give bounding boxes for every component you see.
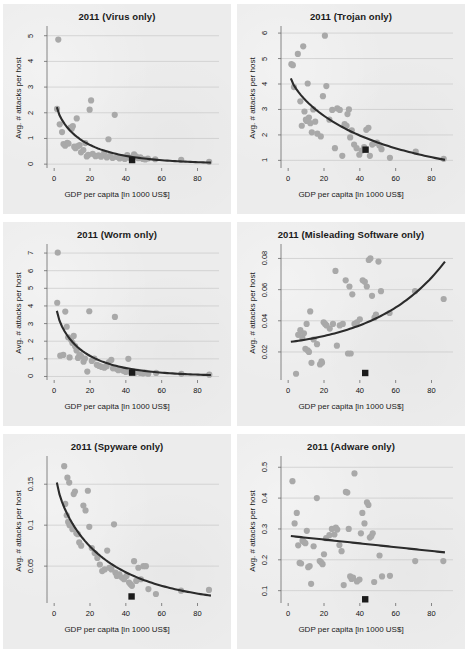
data-point (153, 591, 159, 597)
x-tick-label: 20 (310, 609, 338, 618)
y-axis-label: Avg. # attacks per host (247, 42, 259, 154)
y-tick-label: 7 (25, 241, 37, 265)
trend-line (57, 311, 211, 375)
data-point (308, 581, 314, 587)
x-tick-label: 20 (76, 174, 104, 183)
x-tick-label: 80 (184, 174, 212, 183)
highlight-marker (129, 157, 135, 163)
y-tick-label: 1 (259, 148, 271, 172)
data-point (143, 563, 149, 569)
highlight-marker (128, 593, 134, 599)
data-point (304, 528, 310, 534)
data-point (356, 576, 362, 582)
x-tick-label: 0 (40, 174, 68, 183)
data-point (440, 558, 446, 564)
data-point (339, 153, 345, 159)
data-point (337, 107, 343, 113)
data-point (349, 291, 355, 297)
chart-panel: 2011 (Misleading Software only)0.020.040… (237, 222, 465, 426)
x-tick-label: 40 (346, 609, 374, 618)
data-point (86, 308, 92, 314)
data-point (367, 255, 373, 261)
data-point (365, 502, 371, 508)
y-tick-label: 6 (259, 21, 271, 45)
x-tick-label: 20 (310, 174, 338, 183)
data-point (387, 573, 393, 579)
y-tick-label: 0 (25, 152, 37, 176)
data-point (87, 107, 93, 113)
data-point (55, 250, 61, 256)
data-point (364, 283, 370, 289)
data-point (387, 155, 393, 161)
x-axis-label: GDP per capita [in 1000 US$] (237, 190, 465, 199)
data-point (319, 561, 325, 567)
highlight-marker (362, 596, 368, 602)
data-point (359, 510, 365, 516)
data-point (78, 543, 84, 549)
x-tick-label: 60 (148, 386, 176, 395)
x-tick-label: 60 (382, 386, 410, 395)
data-point (131, 558, 137, 564)
data-point (292, 520, 298, 526)
data-point (206, 587, 212, 593)
data-point (371, 579, 377, 585)
data-point (346, 526, 352, 532)
data-point (334, 526, 340, 532)
data-point (307, 563, 313, 569)
data-point (112, 314, 118, 320)
data-point (347, 134, 353, 140)
data-point (378, 146, 384, 152)
data-point (88, 97, 94, 103)
data-point (70, 123, 76, 129)
data-point (332, 145, 338, 151)
data-point (112, 112, 118, 118)
y-tick-label: 0.15 (25, 472, 37, 496)
data-point (351, 470, 357, 476)
x-tick-label: 40 (346, 174, 374, 183)
data-point (300, 43, 306, 49)
x-tick-label: 60 (148, 609, 176, 618)
data-point (306, 115, 312, 121)
data-point (357, 316, 363, 322)
x-axis-label: GDP per capita [in 1000 US$] (237, 625, 465, 634)
x-tick-label: 60 (148, 174, 176, 183)
data-point (336, 542, 342, 548)
data-point (346, 106, 352, 112)
y-tick-label: 0.04 (259, 309, 271, 333)
x-axis-label: GDP per capita [in 1000 US$] (3, 402, 231, 411)
data-point (341, 582, 347, 588)
data-point (319, 360, 325, 366)
data-point (322, 33, 328, 39)
data-point (72, 488, 78, 494)
data-point (145, 586, 151, 592)
data-point (358, 530, 364, 536)
data-point (108, 357, 114, 363)
data-point (301, 108, 307, 114)
x-tick-label: 20 (76, 609, 104, 618)
data-point (312, 119, 318, 125)
data-point (129, 583, 135, 589)
data-point (104, 547, 110, 553)
chart-panel: 2011 (Trojan only)123456020406080Avg. # … (237, 4, 465, 214)
data-point (74, 115, 80, 121)
data-point (309, 129, 315, 135)
y-tick-label: 0.02 (259, 340, 271, 364)
data-point (307, 308, 313, 314)
y-tick-label: 3 (259, 97, 271, 121)
plot-area (3, 222, 231, 426)
x-tick-label: 40 (112, 386, 140, 395)
data-point (318, 133, 324, 139)
data-point (365, 125, 371, 131)
y-tick-label: 2 (259, 123, 271, 147)
y-tick-label: 0.06 (259, 278, 271, 302)
data-point (343, 277, 349, 283)
data-point (295, 542, 301, 548)
data-point (332, 268, 338, 274)
data-point (344, 489, 350, 495)
chart-panel: 2011 (Worm only)01234567020406080Avg. # … (3, 222, 231, 426)
y-tick-label: 2 (25, 101, 37, 125)
data-point (97, 561, 103, 567)
highlight-marker (129, 369, 135, 375)
data-point (361, 520, 367, 526)
data-point (57, 121, 63, 127)
